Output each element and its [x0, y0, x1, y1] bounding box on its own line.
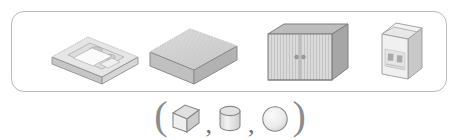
carton-package-icon — [362, 12, 442, 93]
separator-2: , — [246, 112, 257, 138]
legend-item-sphere[interactable] — [257, 100, 293, 136]
page-root: ( , , — [0, 0, 460, 140]
two-door-cabinet-icon — [250, 12, 360, 93]
object-item-carton-package[interactable] — [362, 12, 442, 93]
legend-item-cube[interactable] — [168, 100, 204, 136]
rectangular-box-icon — [140, 12, 250, 93]
primitive-shape-tuple: ( , , — [0, 96, 460, 140]
cabinet-knob-right — [302, 55, 306, 59]
cabinet-knob-left — [295, 55, 299, 59]
separator-1: , — [204, 112, 215, 138]
cube-icon — [168, 100, 204, 136]
close-paren: ) — [293, 96, 306, 136]
object-row — [12, 12, 446, 91]
object-reference-panel — [11, 11, 447, 92]
flat-rectangular-case-icon — [40, 12, 150, 93]
legend-item-cylinder[interactable] — [214, 100, 246, 136]
object-item-rectangular-box[interactable] — [140, 12, 250, 93]
object-item-two-door-cabinet[interactable] — [250, 12, 360, 93]
open-paren: ( — [154, 96, 167, 136]
cylinder-icon — [214, 100, 246, 136]
object-item-flat-rectangular-case[interactable] — [40, 12, 150, 93]
sphere-icon — [257, 100, 293, 136]
